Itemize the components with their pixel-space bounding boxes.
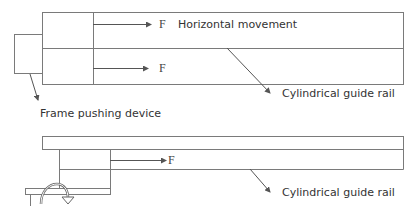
horizontal-movement-label: Horizontal movement <box>178 19 297 30</box>
force-label: F <box>159 18 166 30</box>
bottom-rail-top <box>43 137 404 150</box>
frame-pushing-device-block <box>15 35 43 74</box>
arrow-diagonal-icon <box>227 48 270 93</box>
force-label: F <box>159 62 166 74</box>
guide-rail-label-top: Cylindrical guide rail <box>282 88 395 99</box>
guide-rail-label-bottom: Cylindrical guide rail <box>282 187 395 198</box>
arrow-diagonal-icon <box>250 169 270 192</box>
force-label: F <box>168 154 175 166</box>
arrow-diagonal-icon <box>30 74 38 100</box>
frame-pushing-device-label: Frame pushing device <box>40 108 161 119</box>
